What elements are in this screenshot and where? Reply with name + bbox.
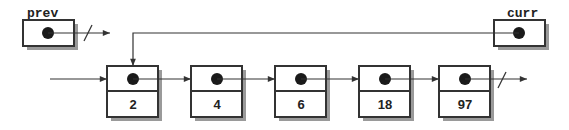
list-node: 4 xyxy=(191,66,275,121)
prev-label: prev xyxy=(27,6,58,21)
curr-arrow xyxy=(133,33,519,66)
prev-pointer: prev xyxy=(23,6,110,50)
tail-null-slash-icon xyxy=(498,72,506,88)
linked-list-diagram: prev curr 2 4 6 xyxy=(0,0,569,130)
list-node: 18 xyxy=(359,66,439,121)
node-value: 2 xyxy=(129,97,136,112)
list-node: 2 xyxy=(107,66,191,121)
list-node: 6 xyxy=(275,66,359,121)
node-value: 6 xyxy=(297,97,304,112)
curr-label: curr xyxy=(507,6,538,21)
node-value: 97 xyxy=(458,97,472,112)
node-value: 18 xyxy=(378,97,392,112)
curr-pointer: curr xyxy=(133,6,549,66)
list-node: 97 xyxy=(439,66,527,121)
node-value: 4 xyxy=(213,97,221,112)
